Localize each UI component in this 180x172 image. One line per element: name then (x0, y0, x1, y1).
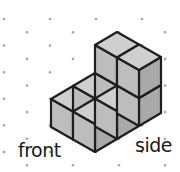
grid-dot (26, 31, 29, 34)
grid-dot (49, 71, 52, 74)
grid-dot (26, 84, 29, 87)
front-label: front (18, 141, 61, 160)
grid-dot (164, 164, 167, 167)
grid-dot (3, 98, 6, 101)
grid-dot (49, 18, 52, 21)
grid-dot (3, 71, 6, 74)
grid-dot (26, 111, 29, 114)
grid-dot (141, 18, 144, 21)
grid-dot (164, 111, 167, 114)
cube (117, 45, 161, 99)
grid-dot (49, 44, 52, 47)
grid-dot (26, 164, 29, 167)
grid-dot (164, 31, 167, 34)
grid-dot (164, 84, 167, 87)
grid-dot (3, 151, 6, 154)
grid-dot (3, 124, 6, 127)
grid-dot (72, 58, 75, 61)
grid-dot (118, 164, 121, 167)
grid-dot (3, 18, 6, 21)
grid-dot (3, 44, 6, 47)
grid-dot (95, 18, 98, 21)
grid-dot (72, 164, 75, 167)
grid-dot (164, 58, 167, 61)
side-label: side (135, 136, 172, 155)
grid-dot (72, 31, 75, 34)
grid-dot (26, 58, 29, 61)
